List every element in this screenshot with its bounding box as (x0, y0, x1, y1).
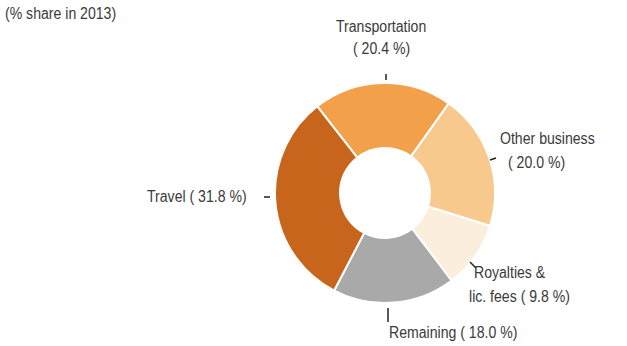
other-business-tick (490, 158, 496, 160)
label-transportation: Transportation (336, 16, 426, 38)
label-other-business-value: ( 20.0 %) (508, 152, 565, 174)
label-travel: Travel ( 31.8 %) (147, 186, 247, 208)
label-other-business: Other business (500, 128, 595, 150)
label-royalties-value: lic. fees ( 9.8 %) (469, 286, 570, 308)
label-royalties: Royalties & (474, 262, 545, 284)
label-transportation-value: ( 20.4 %) (353, 38, 410, 60)
label-remaining: Remaining ( 18.0 %) (389, 322, 517, 344)
donut-slices (275, 83, 495, 303)
